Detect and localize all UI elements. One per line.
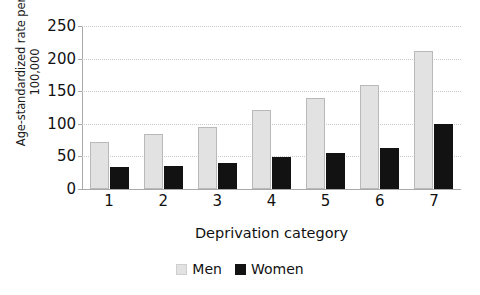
bar-women-category-6 [380,148,399,189]
x-axis-tick-label: 7 [407,194,461,209]
bar-men-category-7 [414,51,433,189]
bar-men-category-6 [360,85,379,189]
bar-group [198,26,237,189]
legend-swatch-icon [176,264,187,275]
bar-women-category-1 [110,167,129,189]
legend-swatch-icon [235,264,246,275]
x-axis-tick-label: 2 [136,194,190,209]
bar-group [414,26,453,189]
bar-group [360,26,399,189]
x-axis-tick-label: 3 [190,194,244,209]
x-axis-tick-label: 1 [82,194,136,209]
bar-men-category-5 [306,98,325,189]
y-axis-tick [78,124,82,125]
legend-item-women[interactable]: Women [235,261,304,277]
x-axis-tick-label: 5 [299,194,353,209]
bar-women-category-2 [164,166,183,189]
y-axis-tick-label: 200 [47,52,76,67]
bar-group [144,26,183,189]
y-axis-tick-label: 150 [47,84,76,99]
bar-women-category-3 [218,163,237,189]
bar-men-category-3 [198,127,217,189]
y-axis-tick [78,189,82,190]
x-axis-tick-label: 4 [244,194,298,209]
x-axis-tick-labels: 1234567 [82,194,461,216]
bar-men-category-4 [252,110,271,189]
bar-women-category-4 [272,157,291,189]
y-axis-tick [78,26,82,27]
y-axis-tick-label: 100 [47,117,76,132]
y-axis-line [82,26,83,189]
y-axis-title-line-1: Age-standardized rate per [15,0,29,146]
x-axis-tick-label: 6 [353,194,407,209]
x-axis-title: Deprivation category [82,225,461,241]
bar-women-category-5 [326,153,345,189]
y-axis-tick [78,91,82,92]
bar-women-category-7 [434,124,453,189]
bar-men-category-1 [90,142,109,189]
legend-label: Women [251,261,304,277]
y-axis-tick-label: 0 [66,182,76,197]
legend: MenWomen [0,261,480,277]
bar-chart: Age-standardized rate per 100,000 250200… [0,0,480,295]
legend-item-men[interactable]: Men [176,261,222,277]
bar-group [90,26,129,189]
bar-group [252,26,291,189]
y-axis-tick-label: 250 [47,19,76,34]
y-axis-tick-label: 50 [57,149,76,164]
x-axis-line [82,189,461,190]
y-axis-tick [78,59,82,60]
legend-label: Men [192,261,222,277]
bar-group [306,26,345,189]
y-axis-tick-labels: 250200150100500 [30,26,76,189]
bar-men-category-2 [144,134,163,189]
y-axis-tick [78,156,82,157]
plot-area [82,26,461,189]
